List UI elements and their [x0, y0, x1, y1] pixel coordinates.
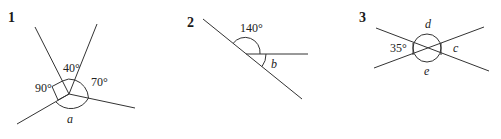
angle-label-35: 35° [390, 41, 407, 55]
diagram-1-number: 1 [8, 10, 15, 25]
angle-label-40: 40° [63, 61, 80, 75]
arc-b [262, 54, 266, 67]
angle-label-d: d [425, 17, 432, 31]
arc-140 [233, 37, 260, 54]
diagram-1: 1 40° 70° 90° a [8, 10, 135, 126]
arc-a [56, 98, 89, 109]
right-angle-marker [52, 81, 69, 100]
angle-label-e: e [424, 64, 430, 78]
angle-label-a: a [67, 112, 73, 126]
angle-label-70: 70° [91, 75, 108, 89]
diagram-3-number: 3 [359, 10, 366, 25]
diagram-2: 2 140° b [187, 15, 308, 99]
ray-right [69, 94, 135, 108]
diagram-2-number: 2 [187, 15, 194, 30]
arc-40 [63, 79, 76, 81]
diagram-3: 3 35° d c e [359, 10, 489, 78]
angle-label-90: 90° [35, 81, 52, 95]
angle-label-c: c [453, 41, 459, 55]
angle-label-140: 140° [240, 21, 263, 35]
angle-label-b: b [271, 57, 277, 71]
angle-diagrams: 1 40° 70° 90° a 2 140° b 3 35° d [0, 0, 501, 139]
